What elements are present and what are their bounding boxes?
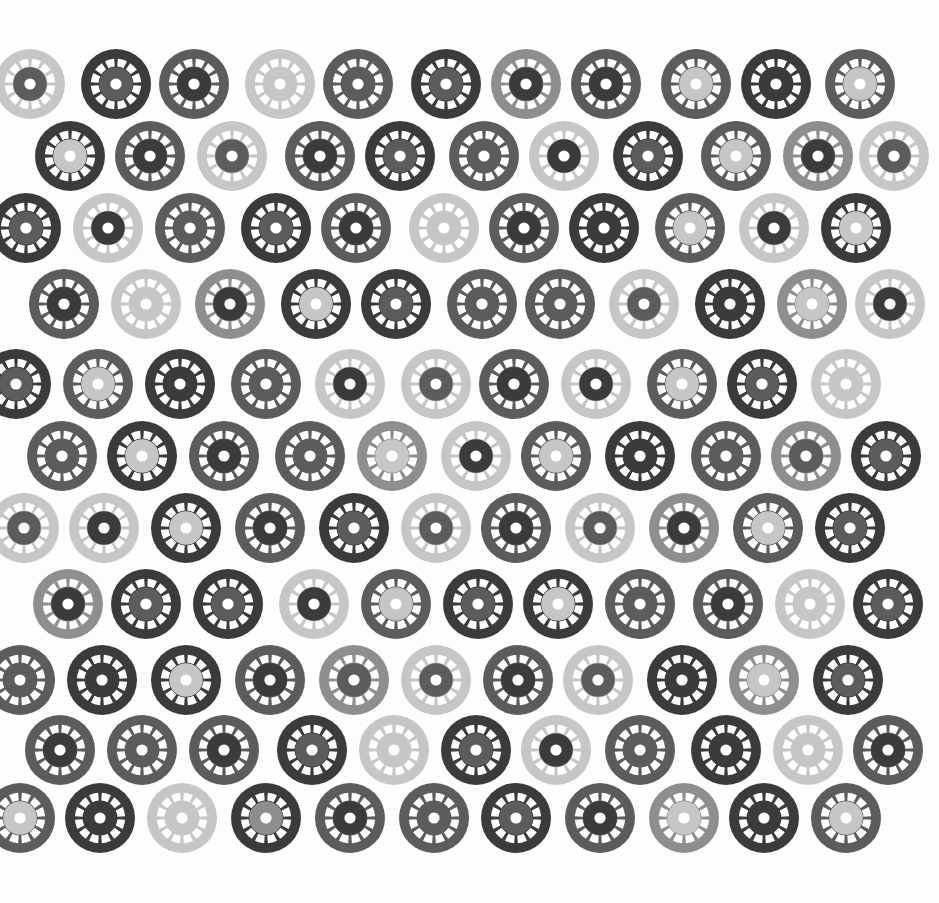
wheel-disc-icon (189, 715, 259, 785)
wheel-disc-icon (107, 421, 177, 491)
wheel-disc-icon (775, 569, 845, 639)
wheel-disc-icon (319, 645, 389, 715)
wheel-disc-icon (231, 783, 301, 853)
wheel-disc-icon (771, 421, 841, 491)
wheel-disc-icon (193, 569, 263, 639)
wheel-disc-icon (315, 783, 385, 853)
wheel-disc-icon (815, 493, 885, 563)
wheel-disc-icon (315, 349, 385, 419)
wheel-disc-icon (145, 349, 215, 419)
wheel-disc-icon (853, 569, 923, 639)
wheel-disc-icon (443, 569, 513, 639)
wheel-disc-icon (281, 269, 351, 339)
wheel-disc-icon (0, 193, 61, 263)
wheel-disc-icon (647, 645, 717, 715)
wheel-disc-icon (359, 715, 429, 785)
wheel-disc-icon (565, 493, 635, 563)
wheel-disc-icon (449, 121, 519, 191)
wheel-disc-icon (777, 269, 847, 339)
wheel-disc-icon (447, 269, 517, 339)
wheel-disc-icon (111, 269, 181, 339)
wheel-disc-icon (821, 193, 891, 263)
wheel-disc-icon (691, 421, 761, 491)
wheel-disc-icon (727, 349, 797, 419)
wheel-disc-icon (0, 349, 51, 419)
wheel-disc-icon (609, 269, 679, 339)
wheel-disc-icon (63, 349, 133, 419)
wheel-disc-icon (195, 269, 265, 339)
wheel-disc-icon (701, 121, 771, 191)
wheel-disc-icon (189, 421, 259, 491)
wheel-disc-icon (0, 493, 59, 563)
wheel-disc-icon (811, 349, 881, 419)
wheel-disc-icon (361, 569, 431, 639)
wheel-disc-icon (69, 493, 139, 563)
wheel-disc-icon (155, 193, 225, 263)
wheel-disc-icon (695, 269, 765, 339)
wheel-disc-icon (561, 349, 631, 419)
wheel-disc-icon (409, 193, 479, 263)
wheel-disc-icon (481, 493, 551, 563)
wheel-disc-icon (729, 645, 799, 715)
wheel-disc-icon (661, 49, 731, 119)
wheel-disc-icon (111, 569, 181, 639)
wheel-disc-icon (25, 715, 95, 785)
wheel-disc-icon (285, 121, 355, 191)
wheel-disc-icon (489, 193, 559, 263)
wheel-disc-icon (197, 121, 267, 191)
wheel-disc-icon (483, 645, 553, 715)
wheel-disc-icon (399, 783, 469, 853)
wheel-disc-icon (565, 783, 635, 853)
wheel-disc-icon (491, 49, 561, 119)
wheel-disc-icon (277, 715, 347, 785)
wheel-disc-icon (691, 715, 761, 785)
wheel-disc-icon (29, 269, 99, 339)
wheel-disc-icon (401, 349, 471, 419)
wheel-disc-icon (783, 121, 853, 191)
wheel-disc-icon (741, 49, 811, 119)
wheel-disc-icon (67, 645, 137, 715)
wheel-disc-icon (35, 121, 105, 191)
disc-pattern (0, 0, 939, 903)
wheel-disc-icon (235, 645, 305, 715)
wheel-disc-icon (605, 569, 675, 639)
wheel-disc-icon (563, 645, 633, 715)
wheel-disc-icon (855, 269, 925, 339)
wheel-disc-icon (245, 49, 315, 119)
wheel-disc-icon (571, 49, 641, 119)
wheel-disc-icon (521, 421, 591, 491)
wheel-disc-icon (321, 193, 391, 263)
wheel-disc-icon (647, 349, 717, 419)
wheel-disc-icon (529, 121, 599, 191)
wheel-disc-icon (241, 193, 311, 263)
wheel-disc-icon (401, 493, 471, 563)
wheel-disc-icon (481, 783, 551, 853)
wheel-disc-icon (27, 421, 97, 491)
wheel-disc-icon (813, 645, 883, 715)
wheel-disc-icon (235, 493, 305, 563)
wheel-disc-icon (0, 49, 65, 119)
wheel-disc-icon (361, 269, 431, 339)
wheel-disc-icon (859, 121, 929, 191)
wheel-disc-icon (649, 783, 719, 853)
wheel-disc-icon (151, 645, 221, 715)
wheel-disc-icon (401, 645, 471, 715)
wheel-disc-icon (521, 715, 591, 785)
wheel-disc-icon (811, 783, 881, 853)
wheel-disc-icon (411, 49, 481, 119)
wheel-disc-icon (441, 715, 511, 785)
wheel-disc-icon (115, 121, 185, 191)
wheel-disc-icon (151, 493, 221, 563)
wheel-disc-icon (319, 493, 389, 563)
wheel-disc-icon (729, 783, 799, 853)
wheel-disc-icon (693, 569, 763, 639)
wheel-disc-icon (0, 645, 55, 715)
wheel-disc-icon (357, 421, 427, 491)
wheel-disc-icon (655, 193, 725, 263)
wheel-disc-icon (523, 569, 593, 639)
wheel-disc-icon (159, 49, 229, 119)
wheel-disc-icon (605, 715, 675, 785)
wheel-disc-icon (0, 783, 55, 853)
wheel-disc-icon (525, 269, 595, 339)
pattern-canvas (0, 0, 939, 903)
